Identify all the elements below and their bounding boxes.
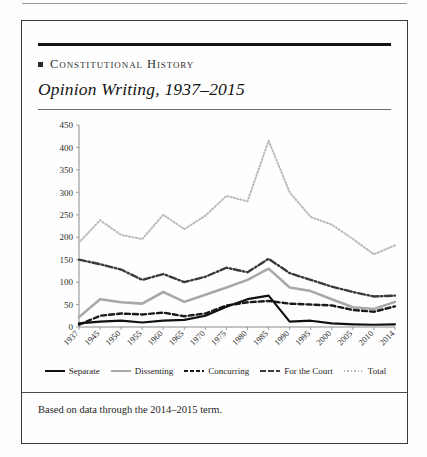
x-axis-tick-label: 1990 [272,328,291,347]
x-axis-tick-label: 1950 [103,328,122,347]
y-axis-tick-label: 350 [60,165,74,175]
x-axis-tick-label: 1937 [61,328,80,347]
y-axis-tick-label: 200 [60,232,74,242]
legend-swatch-icon [344,370,364,372]
y-axis-tick-label: 300 [60,188,74,198]
series-line-for-the-court [79,259,395,297]
legend-swatch-icon [111,370,131,373]
x-axis-tick-label: 1945 [82,328,101,347]
page-top-rule [22,3,407,4]
page-root: Constitutional History Opinion Writing, … [0,0,427,457]
legend-label: Total [368,366,386,376]
y-axis-tick-label: 150 [60,255,74,265]
x-axis-tick-label: 1995 [293,328,312,347]
x-axis-tick-label: 1975 [209,328,228,347]
series-line-separate [79,296,395,325]
y-axis-tick-label: 400 [60,143,74,153]
legend-swatch-icon [184,370,204,372]
x-axis-tick-label: 2014 [377,328,397,348]
legend-label: Dissenting [135,366,174,376]
x-axis-tick-label: 1985 [251,328,270,347]
bullet-square-icon [38,62,43,67]
y-axis-tick-label: 250 [60,210,74,220]
legend-item-concurring[interactable]: Concurring [184,366,249,376]
legend-item-separate[interactable]: Separate [45,366,100,376]
heading-rule [38,109,391,110]
y-axis-tick-label: 450 [60,120,74,130]
legend-item-dissenting[interactable]: Dissenting [111,366,174,376]
series-line-total [79,141,395,255]
legend-item-for-the-court[interactable]: For the Court [260,366,333,376]
x-axis-tick-label: 1980 [230,328,249,347]
x-axis-tick-label: 1970 [188,328,207,347]
x-axis-tick-label: 1955 [125,328,144,347]
section-kicker-label: Constitutional History [50,57,194,72]
legend-swatch-icon [45,370,65,372]
x-axis-tick-label: 2010 [356,328,375,347]
x-axis-tick-label: 2000 [314,328,333,347]
legend-label: Concurring [208,366,249,376]
figure-panel: Constitutional History Opinion Writing, … [21,20,408,444]
legend-item-total[interactable]: Total [344,366,386,376]
chart-legend: SeparateDissentingConcurringFor the Cour… [22,366,409,376]
legend-label: For the Court [284,366,333,376]
x-axis-tick-label: 1960 [146,328,165,347]
section-kicker: Constitutional History [38,57,194,72]
footer-rule [22,392,408,393]
heading-thick-rule [38,43,391,46]
x-axis-tick-label: 2005 [335,328,354,347]
line-chart: 0501001502002503003504004501937194519501… [24,117,407,379]
y-axis-tick-label: 50 [64,300,74,310]
figure-caption: Based on data through the 2014–2015 term… [38,404,222,415]
legend-swatch-icon [260,370,280,372]
x-axis-tick-label: 1965 [167,328,186,347]
legend-label: Separate [69,366,100,376]
figure-title: Opinion Writing, 1937–2015 [38,79,245,100]
y-axis-tick-label: 100 [60,277,74,287]
chart-canvas: 0501001502002503003504004501937194519501… [24,117,407,379]
